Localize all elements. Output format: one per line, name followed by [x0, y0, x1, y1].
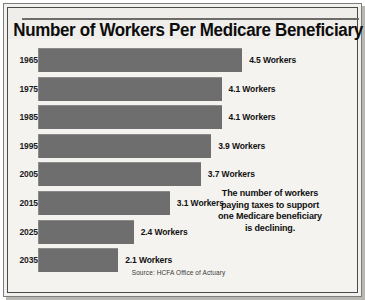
year-axis-label: 1995: [14, 141, 38, 151]
bar-value-label: 3.7 Workers: [208, 169, 255, 179]
annotation-line: paying taxes to support: [190, 200, 350, 212]
title-bar: Number of Workers Per Medicare Beneficia…: [8, 8, 357, 39]
year-axis-label: 1965: [14, 55, 38, 65]
bar-row: 19953.9 Workers: [8, 134, 357, 158]
poster-chart: Number of Workers Per Medicare Beneficia…: [0, 0, 365, 300]
bar-1995: [38, 134, 211, 158]
bar-value-label: 4.5 Workers: [249, 55, 296, 65]
year-axis-label: 2005: [14, 169, 38, 179]
bar-2025: [38, 220, 134, 244]
bar-value-label: 4.1 Workers: [229, 84, 276, 94]
year-axis-label: 2015: [14, 198, 38, 208]
bar-value-label: 3.9 Workers: [218, 141, 265, 151]
annotation-callout: The number of workerspaying taxes to sup…: [190, 188, 350, 234]
bar-2005: [38, 162, 201, 186]
year-axis-label: 1975: [14, 84, 38, 94]
annotation-line: The number of workers: [190, 188, 350, 200]
bar-1975: [38, 77, 222, 101]
annotation-line: one Medicare beneficiary: [190, 211, 350, 223]
year-axis-label: 2035: [14, 255, 38, 265]
bar-value-label: 2.4 Workers: [141, 227, 188, 237]
source-note: Source: HCFA Office of Actuary: [8, 269, 349, 276]
bar-1985: [38, 105, 222, 129]
bar-value-label: 4.1 Workers: [229, 112, 276, 122]
bar-row: 19854.1 Workers: [8, 105, 357, 129]
plot-area: 20352.1 Workers20252.4 Workers20153.1 Wo…: [8, 41, 357, 292]
bar-value-label: 2.1 Workers: [125, 255, 172, 265]
year-axis-label: 1985: [14, 112, 38, 122]
year-axis-label: 2025: [14, 227, 38, 237]
bar-2015: [38, 191, 170, 215]
bar-row: 19654.5 Workers: [8, 48, 357, 72]
annotation-line: is declining.: [190, 223, 350, 235]
bar-row: 19754.1 Workers: [8, 77, 357, 101]
chart-title: Number of Workers Per Medicare Beneficia…: [13, 20, 352, 41]
bar-1965: [38, 48, 242, 72]
bar-row: 20053.7 Workers: [8, 162, 357, 186]
